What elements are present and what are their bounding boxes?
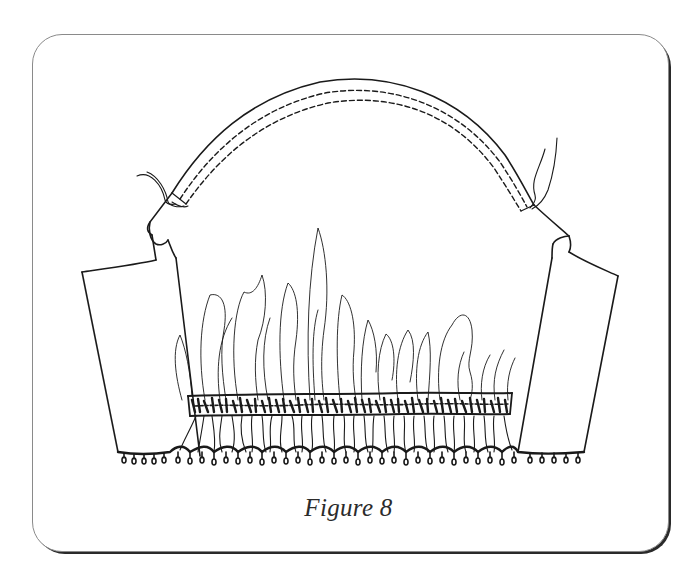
left-folded-sleeve-panel bbox=[82, 222, 200, 456]
elastic-casing-band bbox=[188, 393, 512, 416]
lace-picot-hem bbox=[118, 447, 584, 465]
figure-caption: Figure 8 bbox=[0, 494, 697, 522]
sleeve-sides bbox=[148, 193, 569, 236]
right-folded-sleeve-panel bbox=[518, 236, 618, 452]
gathered-folds bbox=[175, 228, 515, 400]
sleeve-cap bbox=[172, 79, 534, 211]
thread-tails-left bbox=[137, 172, 188, 207]
thread-tails-right bbox=[530, 138, 557, 209]
sleeve-illustration bbox=[0, 0, 697, 580]
